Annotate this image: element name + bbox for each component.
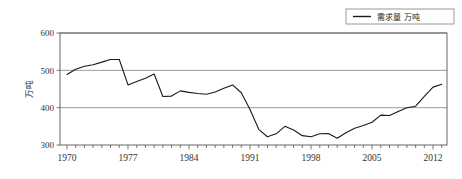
x-tick-label-1991: 1991 xyxy=(241,153,260,163)
y-tick-label-500: 500 xyxy=(41,66,55,76)
x-tick-label-1977: 1977 xyxy=(118,153,137,163)
y-tick-label-400: 400 xyxy=(41,103,55,113)
plot-background xyxy=(60,33,447,145)
x-tick-label-1984: 1984 xyxy=(180,153,199,163)
legend: 需求量 万吨 xyxy=(346,9,454,24)
x-tick-label-1998: 1998 xyxy=(302,153,321,163)
y-tick-label-300: 300 xyxy=(41,140,55,150)
y-axis-title: 万吨 xyxy=(24,80,34,98)
x-tick-label-2012: 2012 xyxy=(424,153,443,163)
x-tick-label-2005: 2005 xyxy=(363,153,382,163)
legend-label: 需求量 万吨 xyxy=(377,12,420,22)
x-tick-label-1970: 1970 xyxy=(57,153,76,163)
y-axis: 300400500600 xyxy=(41,28,61,150)
y-tick-label-600: 600 xyxy=(41,28,55,38)
x-axis: 1970197719841991199820052012 xyxy=(57,145,442,163)
chart-canvas: 300400500600 197019771984199119982005201… xyxy=(0,0,462,179)
demand-line-chart: 300400500600 197019771984199119982005201… xyxy=(0,0,462,179)
